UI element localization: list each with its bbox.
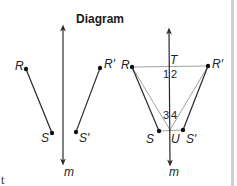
segment-r-prime-s-prime-right [183,66,208,130]
segment-s-s-prime [159,130,183,131]
text-fragment: t [1,173,5,186]
line-m-left-label: m [64,165,74,179]
angle-3-label: 3 [163,109,169,121]
diagram-canvas: Diagram m R S R′ S′ m R R′ S S′ T U [0,0,237,186]
point-r-prime-right [206,64,210,68]
label-s-prime-left: S′ [79,131,90,145]
label-s-right: S [146,132,154,146]
line-m-right [169,31,170,163]
segment-r-prime-s-prime [76,68,100,132]
line-m-right-label: m [169,165,179,179]
point-s-left [50,131,54,135]
angle-2-label: 2 [171,68,177,80]
page-edge-bar [231,0,234,186]
label-t: T [170,53,179,67]
label-s-left: S [41,131,49,145]
diagram-title: Diagram [76,12,124,26]
label-s-prime-right: S′ [186,132,197,146]
right-figure: m R R′ S S′ T U 1 2 3 4 [121,31,224,179]
angle-1-label: 1 [163,68,169,80]
label-r-prime-left: R′ [104,57,116,71]
label-r-right: R [121,58,130,72]
point-s-right [157,129,161,133]
angle-4-label: 4 [171,109,177,121]
label-r-prime-right: R′ [212,57,224,71]
segment-rs [26,69,52,133]
point-r-right [130,65,134,69]
point-r-left [24,67,28,71]
point-r-prime-left [98,66,102,70]
point-s-prime-left [74,130,78,134]
point-s-prime-right [181,128,185,132]
segment-rs-right [132,67,159,131]
left-figure: m R S R′ S′ [15,28,116,179]
label-u: U [171,132,180,146]
label-r-left: R [15,59,24,73]
